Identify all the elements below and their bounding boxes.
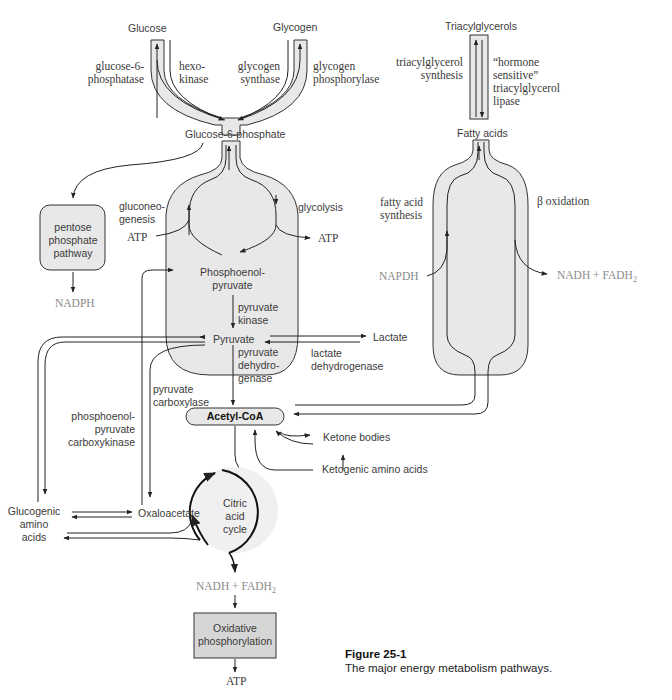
pyruvate-kinase-label: pyruvatekinase <box>238 301 278 327</box>
ldh-label: lactatedehydrogenase <box>311 347 383 373</box>
ketogenic-aa-label: Ketogenic amino acids <box>322 463 428 476</box>
napdh-label: NAPDH <box>379 270 419 283</box>
pentose-phosphate-pathway-label: pentosephosphatepathway <box>42 221 104 260</box>
citric-acid-cycle-label: Citricacidcycle <box>214 497 256 536</box>
fa-synthesis-label: fatty acidsynthesis <box>380 196 423 222</box>
ketone-bodies-label: Ketone bodies <box>323 431 390 444</box>
nadph-label: NADPH <box>55 297 95 310</box>
atp-bottom-label: ATP <box>226 675 246 688</box>
oxphos-label: Oxidativephosphorylation <box>194 622 276 648</box>
tag-tube <box>470 35 488 119</box>
pdh-label: pyruvatedehydro-genase <box>238 346 279 385</box>
fatty-acids-label: Fatty acids <box>457 127 508 140</box>
acetyl-coa-label: Acetyl-CoA <box>186 410 284 423</box>
figure-caption-title: Figure 25-1 <box>345 648 406 661</box>
pep-label: Phosphoenol-pyruvate <box>195 266 270 292</box>
pyruvate-carboxylase-label: pyruvatecarboxylase <box>153 383 209 409</box>
glycolysis-label: glycolysis <box>298 201 343 214</box>
atp-right-label: ATP <box>318 232 338 245</box>
gluconeogenesis-label: gluconeo-genesis <box>119 200 165 226</box>
glycogen-label: Glycogen <box>273 21 317 34</box>
glucogenic-aa-label: Glucogenicaminoacids <box>4 505 64 544</box>
glucose-label: Glucose <box>128 22 167 35</box>
atp-left-label: ATP <box>127 231 147 244</box>
lactate-label: Lactate <box>373 331 407 344</box>
hsl-label: “hormonesensitive”triacylglycerollipase <box>493 56 560 108</box>
hexokinase-label: hexo-kinase <box>179 60 208 86</box>
figure-caption-text: The major energy metabolism pathways. <box>345 662 552 675</box>
tag-synthesis-label: triacylglycerolsynthesis <box>385 56 463 82</box>
nadh-fadh-bottom-label: NADH + FADH2 <box>196 580 276 597</box>
nadh-fadh-right-label: NADH + FADH2 <box>557 269 637 286</box>
pepck-label: phosphoenol-pyruvatecarboxykinase <box>60 410 135 449</box>
glycogen-phosphorylase-label: glycogenphosphorylase <box>313 60 379 86</box>
g6p-label: Glucose-6-phosphate <box>185 128 285 141</box>
oxaloacetate-label: Oxaloacetate <box>138 507 200 520</box>
triacylglycerols-label: Triacylglycerols <box>445 20 517 33</box>
glycogen-synthase-label: glycogensynthase <box>230 60 280 86</box>
beta-oxidation-label: β oxidation <box>537 195 589 208</box>
g6pase-label: glucose-6-phosphatase <box>82 60 144 86</box>
pyruvate-label: Pyruvate <box>213 333 254 346</box>
